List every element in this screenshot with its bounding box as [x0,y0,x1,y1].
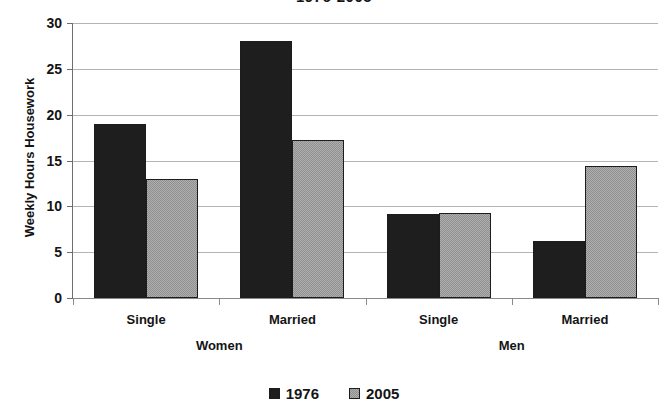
plot-area [73,23,658,298]
category-separator [658,298,659,305]
chart-title: 1976-2005 [0,0,668,5]
black-square-icon [269,388,280,399]
bar-women-married-1976 [240,41,292,298]
y-tick-label: 10 [20,199,62,213]
y-tick-label: 5 [20,245,62,259]
bar-men-married-1976 [533,241,585,298]
group-label-women: Women [73,338,366,353]
category-label-women-married: Married [219,312,365,327]
y-tick-label: 15 [20,154,62,168]
legend: 19762005 [0,386,668,401]
category-separator [366,298,367,305]
legend-item-1976: 1976 [269,386,319,401]
bar-women-married-2005 [292,140,344,298]
y-tick-label: 20 [20,108,62,122]
bar-chart: 1976-2005 Weekly Hours Housework 3025201… [0,0,668,412]
legend-label: 2005 [366,386,399,401]
y-tick-label: 25 [20,62,62,76]
bar-women-single-1976 [94,124,146,298]
category-separator [73,298,74,305]
y-tick-label: 0 [20,291,62,305]
category-separator [219,298,220,305]
category-label-men-married: Married [512,312,658,327]
bar-men-single-1976 [387,214,439,298]
category-label-men-single: Single [366,312,512,327]
group-label-men: Men [366,338,659,353]
category-label-women-single: Single [73,312,219,327]
y-tick-label: 30 [20,16,62,30]
gray-square-icon [349,388,360,399]
bar-women-single-2005 [146,179,198,298]
bar-men-single-2005 [439,213,491,298]
legend-item-2005: 2005 [349,386,399,401]
legend-label: 1976 [286,386,319,401]
bar-men-married-2005 [585,166,637,298]
category-separator [512,298,513,305]
